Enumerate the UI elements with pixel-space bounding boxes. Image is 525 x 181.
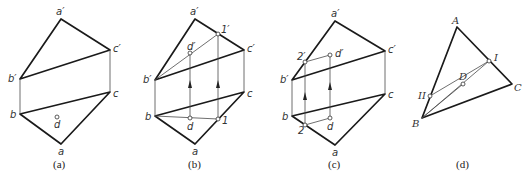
point-d bbox=[188, 116, 192, 120]
caption-d: (d) bbox=[456, 158, 469, 171]
panel-c: a′ 2′ d′ c′ b′ c b 2 d a (c) bbox=[280, 8, 396, 171]
label-b: b bbox=[10, 109, 16, 120]
label-A: A bbox=[451, 15, 459, 26]
label-d-prime: d′ bbox=[335, 48, 344, 59]
label-B: B bbox=[411, 118, 419, 129]
label-2: 2 bbox=[298, 125, 304, 136]
label-1-prime: 1′ bbox=[221, 24, 230, 35]
arrow-up-icon bbox=[188, 80, 192, 88]
point-II bbox=[428, 94, 432, 98]
label-1: 1 bbox=[222, 115, 228, 126]
label-c-prime: c′ bbox=[113, 43, 121, 54]
label-b-prime: b′ bbox=[143, 74, 152, 85]
label-C: C bbox=[514, 82, 522, 93]
label-D: D bbox=[458, 71, 467, 82]
point-1-prime bbox=[216, 32, 220, 36]
label-c: c bbox=[247, 88, 253, 99]
label-b-prime: b′ bbox=[8, 73, 17, 84]
point-d bbox=[328, 116, 332, 120]
line-B-I bbox=[422, 61, 489, 118]
aux-line-b-1 bbox=[155, 116, 218, 119]
label-b-prime: b′ bbox=[280, 74, 289, 85]
label-d: d bbox=[187, 121, 194, 132]
label-c: c bbox=[388, 89, 394, 100]
point-I bbox=[487, 59, 491, 63]
label-b: b bbox=[145, 111, 151, 122]
label-2-prime: 2′ bbox=[297, 51, 306, 62]
projection-figure: a′ c′ b′ c b d a (a) a′ 1′ d′ c′ b′ c b … bbox=[0, 0, 525, 181]
panel-b: a′ 1′ d′ c′ b′ c b d 1 a (b) bbox=[143, 6, 255, 171]
arrow-up-icon bbox=[216, 80, 220, 88]
label-c-prime: c′ bbox=[247, 43, 255, 54]
point-D bbox=[461, 82, 465, 86]
label-II: II bbox=[417, 90, 427, 101]
caption-a: (a) bbox=[53, 158, 66, 171]
point-d-prime bbox=[328, 53, 332, 57]
point-1 bbox=[216, 117, 220, 121]
label-b: b bbox=[282, 111, 288, 122]
label-a: a bbox=[58, 146, 64, 157]
label-a-prime: a′ bbox=[190, 6, 199, 17]
label-d-prime: d′ bbox=[187, 41, 196, 52]
front-view-triangle bbox=[20, 19, 110, 79]
front-view-triangle bbox=[155, 19, 244, 80]
label-I: I bbox=[493, 52, 499, 63]
label-c-prime: c′ bbox=[388, 44, 396, 55]
label-a: a bbox=[192, 146, 198, 157]
panel-a: a′ c′ b′ c b d a (a) bbox=[8, 6, 121, 171]
panel-d: A I D C II B (d) bbox=[411, 15, 522, 171]
top-view-triangle bbox=[292, 94, 385, 145]
label-d: d bbox=[54, 119, 61, 130]
top-view-triangle bbox=[20, 92, 110, 144]
label-d: d bbox=[327, 121, 334, 132]
arrow-up-icon bbox=[303, 92, 307, 100]
label-a-prime: a′ bbox=[331, 8, 340, 19]
label-a-prime: a′ bbox=[56, 6, 65, 17]
arrow-up-icon bbox=[328, 82, 332, 90]
caption-b: (b) bbox=[188, 158, 201, 171]
caption-c: (c) bbox=[328, 158, 341, 171]
label-a: a bbox=[332, 147, 338, 158]
label-c: c bbox=[113, 88, 119, 99]
